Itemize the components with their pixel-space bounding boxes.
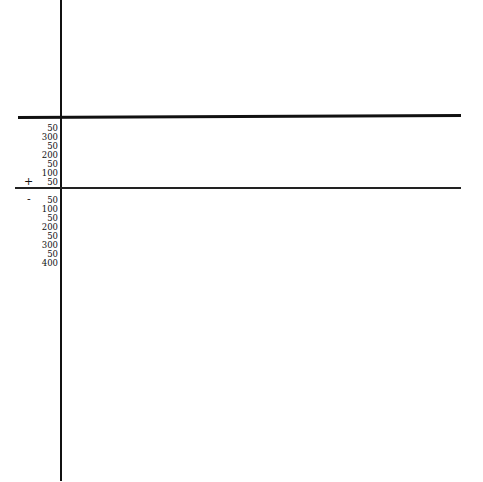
chart-canvas: + - 50 300 50 200 50 100 50 50 100 50 20… (0, 0, 483, 482)
y-tick-label: 50 (47, 178, 58, 187)
vertical-axis (60, 0, 62, 481)
minus-sign-label: - (27, 193, 31, 206)
zero-horizontal-line (15, 187, 461, 189)
plus-sign-label: + (24, 175, 33, 188)
upper-horizontal-line (18, 114, 461, 119)
y-tick-label: 400 (42, 259, 58, 268)
